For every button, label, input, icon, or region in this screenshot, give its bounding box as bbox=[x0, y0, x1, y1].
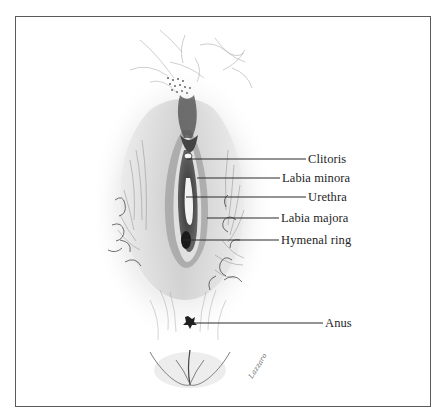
buttocks-cleft bbox=[150, 350, 230, 388]
label-labia-majora: Labia majora bbox=[281, 211, 348, 225]
vulva-illustration bbox=[0, 0, 444, 417]
hymenal-opening bbox=[181, 231, 191, 249]
label-urethra: Urethra bbox=[308, 190, 347, 204]
label-labia-minora: Labia minora bbox=[282, 171, 350, 185]
label-anus: Anus bbox=[325, 316, 352, 330]
label-clitoris: Clitoris bbox=[308, 152, 346, 166]
label-hymenal-ring: Hymenal ring bbox=[281, 233, 351, 247]
